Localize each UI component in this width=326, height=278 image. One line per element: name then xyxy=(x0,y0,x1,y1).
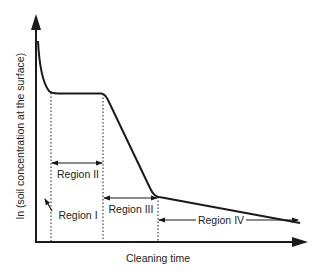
region-1-label: Region I xyxy=(58,209,97,221)
region-4-label: Region IV xyxy=(198,214,244,226)
concentration-curve xyxy=(38,41,300,223)
x-axis-label: Cleaning time xyxy=(126,252,190,264)
y-axis-label: ln (soil concentration at the surface) xyxy=(14,53,26,219)
x-axis-arrow-icon xyxy=(292,237,308,247)
region-2-label: Region II xyxy=(57,168,99,180)
region-3-label: Region III xyxy=(109,203,154,215)
cleaning-kinetics-diagram: Region II Region I Region III Region IV … xyxy=(0,0,326,278)
y-axis-arrow-icon xyxy=(31,14,41,30)
